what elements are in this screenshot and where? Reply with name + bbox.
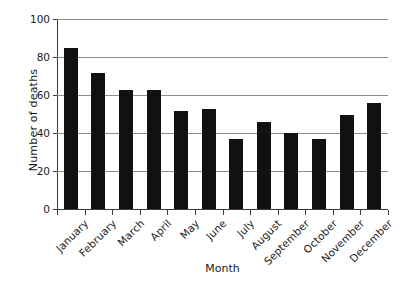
bar [312,139,326,209]
bar [284,133,298,209]
x-tick-label: June [204,217,229,242]
bar [174,111,188,209]
x-tick-mark [167,210,168,215]
bar-slot [85,20,113,209]
bar-slot [333,20,361,209]
bar-series [57,20,388,209]
bar-slot [360,20,388,209]
x-tick-mark [388,210,389,215]
bar-slot [112,20,140,209]
bar [64,48,78,209]
bar-slot [305,20,333,209]
x-tick-mark [195,210,196,215]
y-tick-label: 60 [37,89,50,101]
bar [119,90,133,209]
x-tick-mark [333,210,334,215]
bar-slot [250,20,278,209]
x-tick-mark [360,210,361,215]
x-tick-mark [85,210,86,215]
bar [340,115,354,210]
y-tick-label: 40 [37,127,50,139]
bar [91,73,105,209]
y-tick-label: 0 [43,203,50,215]
y-tick-label: 20 [37,165,50,177]
bar-slot [57,20,85,209]
x-tick-label: April [148,217,174,243]
x-tick-mark [250,210,251,215]
x-tick-label: May [177,217,201,241]
x-tick-label: March [115,217,146,248]
bar-slot [140,20,168,209]
bar-slot [167,20,195,209]
bar [367,103,381,209]
x-axis-title: Month [57,262,388,275]
x-tick-mark [223,210,224,215]
y-axis-title: Number of deaths [22,15,44,225]
x-tick-mark [140,210,141,215]
plot-area: 020406080100 JanuaryFebruaryMarchAprilMa… [57,20,388,210]
x-tick-mark [112,210,113,215]
bar [202,109,216,209]
bar [147,90,161,209]
y-tick-label: 100 [30,13,50,25]
bar-slot [195,20,223,209]
bar-chart: Number of deaths 020406080100 JanuaryFeb… [0,0,406,284]
bar [229,139,243,209]
y-tick-label: 80 [37,51,50,63]
bar-slot [278,20,306,209]
bar-slot [223,20,251,209]
x-tick-mark [305,210,306,215]
x-tick-mark [57,210,58,215]
x-tick-mark [278,210,279,215]
x-tick-label: July [234,217,256,239]
bar [257,122,271,209]
